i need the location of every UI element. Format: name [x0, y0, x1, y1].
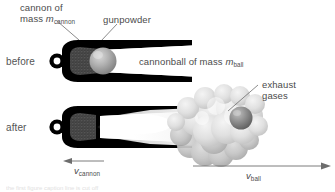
- label-v-cannon: vcannon: [74, 165, 100, 176]
- subscript-v-ball: ball: [251, 175, 261, 182]
- cannonball-highlight-before: [93, 51, 103, 59]
- label-exhaust-gases: exhaust gases: [262, 79, 296, 101]
- arrowhead-right: [321, 163, 331, 170]
- label-cannon-mass: cannon of mass mcannon: [20, 2, 75, 24]
- label-v-ball: vball: [246, 170, 261, 181]
- cannon-cascabel-hole-after: [54, 124, 61, 131]
- stage-label-after: after: [6, 122, 27, 133]
- figure-canvas: cannon of mass mcannon gunpowder cannonb…: [0, 0, 335, 192]
- subscript-v-cannon: cannon: [79, 170, 100, 177]
- symbol-m-cannon: m: [46, 13, 54, 24]
- subscript-cannon: cannon: [54, 18, 75, 25]
- label-exhaust-line2: gases: [262, 90, 288, 101]
- caption-cut-off: the first figure caption line is cut off: [6, 185, 206, 192]
- label-cannon-mass-line1: cannon of: [20, 2, 63, 13]
- velocity-vector-cannon: [63, 158, 104, 164]
- cannonball-highlight-after: [233, 110, 241, 116]
- cannonball-after: [230, 107, 253, 130]
- exhaust-gas-cloud: [167, 84, 268, 167]
- cannon-cascabel-hole-before: [54, 58, 61, 65]
- cannonball-before: [90, 48, 117, 75]
- label-exhaust-line1: exhaust: [262, 79, 296, 90]
- blast-core-highlight: [108, 114, 172, 134]
- stage-label-before: before: [6, 56, 35, 67]
- label-cannonball-mass: cannonball of mass mball: [139, 56, 244, 67]
- label-cannon-mass-line2: mass: [20, 13, 43, 24]
- label-cannonball-text: cannonball of mass: [139, 56, 223, 67]
- gunpowder-residue: [70, 113, 96, 141]
- label-gunpowder: gunpowder: [103, 14, 151, 25]
- subscript-ball: ball: [233, 61, 243, 68]
- arrowhead-left: [63, 158, 72, 164]
